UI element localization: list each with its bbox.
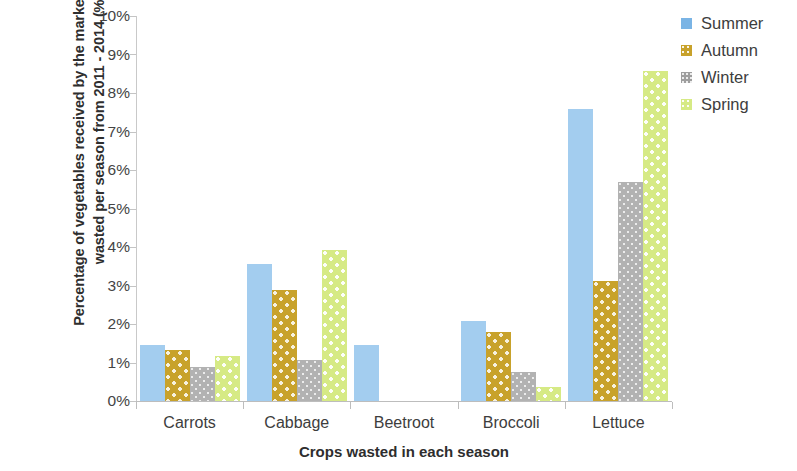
y-axis-tick-label: 1% [74,354,130,372]
plot-area [136,16,672,401]
legend-item-spring[interactable]: Spring [681,92,793,117]
x-axis-label-broccoli: Broccoli [483,414,540,432]
bar-cabbage-winter [297,360,322,401]
y-axis-tick-label: 6% [74,161,130,179]
bar-carrots-autumn [165,350,190,401]
x-axis-tick [672,402,673,409]
x-axis-label-carrots: Carrots [163,414,215,432]
bar-chart: Percentage of vegetables received by the… [0,0,797,471]
y-axis-tick-label: 5% [74,200,130,218]
legend-label: Spring [701,95,749,114]
y-axis-tick [130,16,136,17]
y-axis-tick-label: 4% [74,238,130,256]
bar-broccoli-summer [461,321,486,401]
bar-cabbage-autumn [272,290,297,401]
legend: SummerAutumnWinterSpring [681,11,793,119]
y-axis-tick [130,54,136,55]
y-axis-tick-label: 10% [74,7,130,25]
x-axis-tick [350,402,351,409]
x-axis-line [136,401,672,402]
bar-broccoli-winter [511,372,536,401]
x-axis-tick [243,402,244,409]
y-axis-tick [130,170,136,171]
bar-broccoli-autumn [486,332,511,401]
legend-label: Autumn [701,41,758,60]
bar-cabbage-summer [247,264,272,401]
y-axis-tick-label: 7% [74,123,130,141]
legend-swatch-icon [681,45,692,56]
legend-label: Winter [701,68,749,87]
x-axis-label-lettuce: Lettuce [592,414,644,432]
legend-swatch-icon [681,99,692,110]
y-axis-tick [130,324,136,325]
legend-item-summer[interactable]: Summer [681,11,793,36]
y-axis-tick-label: 0% [74,392,130,410]
y-axis-tick-label: 3% [74,277,130,295]
y-axis-tick [130,132,136,133]
bar-lettuce-autumn [593,281,618,402]
bar-lettuce-spring [643,71,668,401]
legend-swatch-icon [681,18,692,29]
y-axis-tick-labels: 0%1%2%3%4%5%6%7%8%9%10% [74,0,130,471]
x-axis-label-cabbage: Cabbage [264,414,329,432]
bar-lettuce-summer [568,109,593,401]
legend-item-winter[interactable]: Winter [681,65,793,90]
x-axis-title: Crops wasted in each season [136,443,672,460]
bar-beetroot-summer [354,345,379,401]
bar-lettuce-winter [618,182,643,401]
y-axis-tick [130,286,136,287]
x-axis-tick [136,402,137,409]
x-axis-tick [565,402,566,409]
x-axis-label-beetroot: Beetroot [374,414,434,432]
y-axis-tick [130,209,136,210]
y-axis-tick-label: 2% [74,315,130,333]
y-axis-tick-label: 8% [74,84,130,102]
y-axis-tick [130,363,136,364]
legend-label: Summer [701,14,763,33]
bar-carrots-spring [215,356,240,401]
bar-cabbage-spring [322,250,347,401]
bar-broccoli-spring [536,387,561,401]
bar-carrots-winter [190,367,215,401]
y-axis-tick [130,93,136,94]
legend-item-autumn[interactable]: Autumn [681,38,793,63]
y-axis-tick [130,247,136,248]
x-axis-tick [458,402,459,409]
y-axis-tick-label: 9% [74,46,130,64]
bar-carrots-summer [140,345,165,401]
legend-swatch-icon [681,72,692,83]
